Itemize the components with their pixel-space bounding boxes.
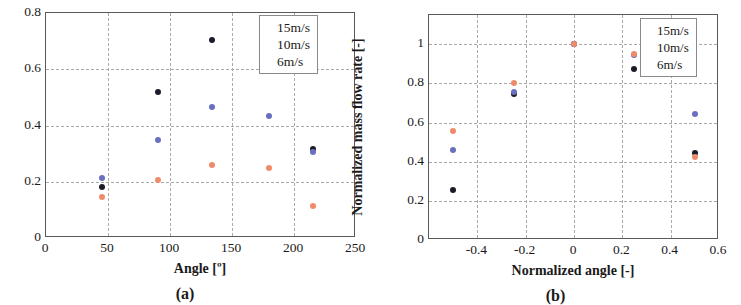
data-point — [155, 137, 161, 143]
x-axis-tick-label: 0 — [42, 240, 49, 256]
y-axis-tick-label: 0.6 — [386, 114, 424, 130]
panel-caption-b: (b) — [370, 287, 741, 305]
data-point — [266, 165, 272, 171]
panel-caption-a: (a) — [0, 285, 370, 303]
legend-item-15ms-a: 15m/s — [265, 19, 310, 36]
y-axis-tick-label: 1 — [386, 35, 424, 51]
y-axis-tick-label: 0.2 — [386, 192, 424, 208]
legend-item-15ms-b: 15m/s — [646, 22, 689, 39]
chart-panel-b: Normalized mass flow rate [-] Normalized… — [370, 0, 741, 305]
x-axis-tick-label: -0.4 — [466, 242, 487, 258]
legend-a: 15m/s 10m/s 6m/s — [259, 15, 318, 74]
data-point — [99, 175, 105, 181]
x-axis-tick-label: 150 — [221, 240, 241, 256]
y-axis-tick-label: 0.8 — [3, 4, 41, 20]
gridline-horizontal — [46, 182, 354, 183]
chart-panel-a: Mass flow rate [kg/s] Angle [º] 15m/s 10… — [0, 0, 370, 305]
x-axis-tick-label: 50 — [100, 240, 114, 256]
data-point — [99, 184, 105, 190]
y-axis-tick-label: 0.4 — [3, 117, 41, 133]
legend-item-10ms-a: 10m/s — [265, 36, 310, 53]
figure-root: Mass flow rate [kg/s] Angle [º] 15m/s 10… — [0, 0, 741, 305]
data-point — [631, 66, 637, 72]
data-point — [310, 149, 316, 155]
x-axis-tick-label: 0.6 — [710, 242, 727, 258]
gridline-horizontal — [429, 201, 717, 202]
x-axis-tick-label: 100 — [159, 240, 179, 256]
x-axis-tick-label: 200 — [283, 240, 303, 256]
legend-item-6ms-a: 6m/s — [265, 53, 310, 70]
y-axis-title-b: Normalized mass flow rate [-] — [350, 38, 366, 215]
legend-marker-icon-6ms-b — [646, 63, 649, 66]
legend-marker-icon-10ms-a — [265, 42, 270, 47]
gridline-vertical — [232, 13, 233, 236]
data-point — [692, 154, 698, 160]
gridline-vertical — [108, 13, 109, 236]
legend-item-10ms-b: 10m/s — [646, 39, 689, 56]
legend-label-15ms-b: 15m/s — [657, 24, 689, 37]
legend-label-6ms-a: 6m/s — [277, 55, 303, 69]
gridline-vertical — [574, 15, 575, 238]
data-point — [209, 104, 215, 110]
legend-label-10ms-b: 10m/s — [657, 41, 689, 54]
gridline-vertical — [170, 13, 171, 236]
legend-label-15ms-a: 15m/s — [277, 21, 310, 35]
x-axis-title-a: Angle [º] — [174, 261, 226, 277]
x-axis-tick-label: 0.4 — [661, 242, 678, 258]
data-point — [450, 147, 456, 153]
y-axis-tick-label: 0.6 — [3, 60, 41, 76]
data-point — [209, 162, 215, 168]
gridline-horizontal — [429, 123, 717, 124]
data-point — [99, 194, 105, 200]
y-axis-tick-label: 0.4 — [386, 153, 424, 169]
x-axis-tick-label: 250 — [345, 240, 365, 256]
data-point — [571, 41, 577, 47]
data-point — [450, 187, 456, 193]
gridline-vertical — [477, 15, 478, 238]
data-point — [155, 89, 161, 95]
gridline-vertical — [526, 15, 527, 238]
data-point — [450, 128, 456, 134]
y-axis-tick-label: 0.8 — [386, 74, 424, 90]
legend-b: 15m/s 10m/s 6m/s — [640, 18, 697, 77]
data-point — [155, 177, 161, 183]
data-point — [511, 89, 517, 95]
y-axis-tick-label: 0 — [386, 231, 424, 247]
legend-label-6ms-b: 6m/s — [657, 58, 682, 71]
data-point — [511, 80, 517, 86]
legend-item-6ms-b: 6m/s — [646, 56, 689, 73]
legend-marker-icon-6ms-a — [265, 59, 270, 64]
legend-label-10ms-a: 10m/s — [277, 38, 310, 52]
data-point — [631, 51, 637, 57]
legend-marker-icon-15ms-a — [265, 25, 270, 30]
legend-marker-icon-10ms-b — [646, 46, 649, 49]
legend-marker-icon-15ms-b — [646, 29, 649, 32]
data-point — [266, 113, 272, 119]
x-axis-tick-label: -0.2 — [514, 242, 535, 258]
y-axis-tick-label: 0.2 — [3, 173, 41, 189]
data-point — [209, 37, 215, 43]
x-axis-tick-label: 0.2 — [613, 242, 630, 258]
data-point — [310, 203, 316, 209]
data-point — [692, 111, 698, 117]
gridline-vertical — [622, 15, 623, 238]
x-axis-tick-label: 0 — [570, 242, 577, 258]
gridline-horizontal — [429, 162, 717, 163]
y-axis-tick-label: 0 — [3, 229, 41, 245]
x-axis-title-b: Normalized angle [-] — [512, 263, 635, 279]
gridline-horizontal — [46, 126, 354, 127]
gridline-horizontal — [429, 83, 717, 84]
